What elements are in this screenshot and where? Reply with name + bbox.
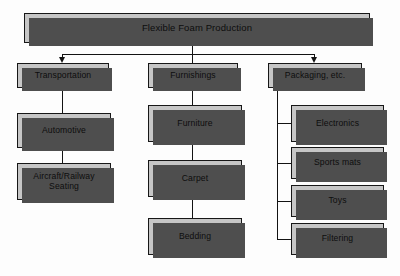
node-label: Filtering	[320, 234, 355, 244]
node-label-line1: Aircraft/Railway	[33, 171, 94, 181]
node-label-line2: Seating	[49, 181, 79, 191]
node-filtering[interactable]: Filtering	[291, 223, 384, 255]
node-label: Automotive	[40, 126, 88, 136]
connector-bus-to-toys	[277, 201, 291, 202]
node-automotive[interactable]: Automotive	[17, 113, 111, 148]
node-carpet[interactable]: Carpet	[148, 160, 242, 197]
flexible-foam-production-diagram: Flexible Foam Production Transportation …	[0, 0, 400, 276]
node-electronics[interactable]: Electronics	[291, 105, 384, 142]
connector-distribution-bus	[62, 54, 314, 55]
node-label: Flexible Foam Production	[140, 23, 254, 34]
node-furniture[interactable]: Furniture	[148, 105, 242, 142]
node-aircraft-railway-seating[interactable]: Aircraft/RailwaySeating	[17, 163, 111, 200]
node-label: Furniture	[175, 119, 214, 129]
connector-carpet-to-bedding	[192, 197, 193, 218]
node-label: Sports mats	[312, 158, 363, 168]
connector-bus-to-electronics	[277, 123, 291, 124]
node-toys[interactable]: Toys	[291, 185, 384, 217]
node-label: Furnishings	[168, 71, 218, 81]
node-sports-mats[interactable]: Sports mats	[291, 147, 384, 179]
node-transportation[interactable]: Transportation	[17, 63, 109, 88]
node-packaging-etc[interactable]: Packaging, etc.	[268, 63, 362, 88]
connector-packaging-bus	[277, 88, 278, 240]
node-label: Aircraft/RailwaySeating	[31, 172, 96, 191]
node-label: Packaging, etc.	[283, 71, 347, 81]
node-bedding[interactable]: Bedding	[148, 218, 242, 255]
node-furnishings[interactable]: Furnishings	[148, 63, 238, 88]
node-root-flexible-foam-production[interactable]: Flexible Foam Production	[24, 13, 370, 43]
connector-transportation-to-automotive	[62, 88, 63, 113]
node-label: Transportation	[33, 71, 94, 81]
node-label: Electronics	[314, 119, 361, 129]
connector-bus-to-filtering	[277, 239, 291, 240]
node-label: Bedding	[177, 232, 213, 242]
node-label: Toys	[326, 196, 348, 206]
node-label: Carpet	[180, 174, 210, 184]
connector-bus-to-sports-mats	[277, 163, 291, 164]
